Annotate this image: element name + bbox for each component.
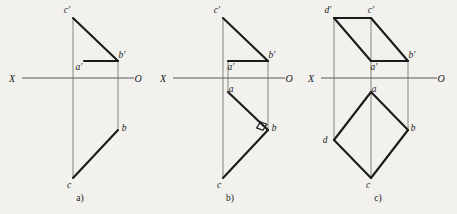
edge-cprime-bprime bbox=[73, 18, 118, 61]
edge-d-c bbox=[334, 140, 371, 178]
point-label-c-prime-c: c′ bbox=[368, 5, 375, 15]
figure-board: XOc′b′a′bca)XOc′b′a′abcb)XOd′c′b′a′abdcc… bbox=[0, 0, 457, 214]
axis-label-x-c: X bbox=[307, 73, 315, 84]
edge-b-c bbox=[371, 130, 408, 178]
edge-cprime-bprime bbox=[371, 18, 408, 61]
edge-a-d bbox=[334, 92, 371, 140]
caption-c: c) bbox=[374, 193, 381, 204]
point-label-a-prime-a: a′ bbox=[76, 62, 84, 72]
edge-b-c bbox=[223, 130, 268, 178]
axis-label-x-a: X bbox=[8, 73, 16, 84]
edge-dprime-aprime bbox=[334, 18, 371, 61]
edge-b-c bbox=[73, 130, 118, 178]
axis-label-o-c: O bbox=[437, 73, 444, 84]
point-label-b-prime-a: b′ bbox=[119, 50, 127, 60]
projection-figure: XOc′b′a′bca)XOc′b′a′abcb)XOd′c′b′a′abdcc… bbox=[0, 0, 457, 214]
point-label-a-b: a bbox=[229, 84, 234, 94]
point-label-c-b: c bbox=[217, 180, 222, 190]
edge-a-b bbox=[371, 92, 408, 130]
point-label-b-prime-b: b′ bbox=[269, 50, 277, 60]
point-label-a-prime-b: a′ bbox=[228, 62, 236, 72]
edge-a-b bbox=[228, 92, 268, 130]
point-label-b-c: b bbox=[411, 123, 416, 133]
point-label-c-a: c bbox=[67, 180, 72, 190]
point-label-d-c: d bbox=[323, 135, 328, 145]
point-label-d-prime-c: d′ bbox=[325, 5, 333, 15]
axis-label-o-a: O bbox=[134, 73, 141, 84]
point-label-b-a: b bbox=[122, 123, 127, 133]
caption-a: a) bbox=[76, 193, 83, 204]
point-label-a-prime-c: a′ bbox=[371, 62, 379, 72]
axis-label-o-b: O bbox=[285, 73, 292, 84]
point-label-a-c: a bbox=[372, 84, 377, 94]
panel-a: XOc′b′a′bca) bbox=[8, 5, 142, 204]
caption-b: b) bbox=[226, 193, 234, 204]
point-label-c-prime-b: c′ bbox=[214, 5, 221, 15]
edge-cprime-bprime bbox=[223, 18, 268, 61]
point-label-c-prime-a: c′ bbox=[64, 5, 71, 15]
point-label-b-b: b bbox=[272, 123, 277, 133]
panel-b: XOc′b′a′abcb) bbox=[159, 5, 293, 204]
point-label-b-prime-c: b′ bbox=[409, 50, 417, 60]
point-label-c-c: c bbox=[366, 180, 371, 190]
panel-c: XOd′c′b′a′abdcc) bbox=[307, 5, 445, 204]
axis-label-x-b: X bbox=[159, 73, 167, 84]
